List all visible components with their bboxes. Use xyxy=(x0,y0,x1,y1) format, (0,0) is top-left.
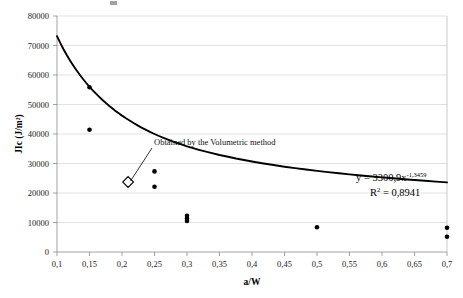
y-axis-title: JIc (J/m²) xyxy=(14,114,25,154)
data-point xyxy=(87,128,92,133)
x-tick-label: 0,5 xyxy=(312,259,323,269)
x-tick-label: 0,6 xyxy=(377,259,388,269)
x-tick-label: 0,35 xyxy=(212,259,227,269)
x-axis-title: a/W xyxy=(244,277,261,287)
x-tick-label: 0,55 xyxy=(342,259,357,269)
y-tick-label: 50000 xyxy=(28,100,49,110)
y-tick-label: 60000 xyxy=(28,70,49,80)
x-tick-label: 0,25 xyxy=(147,259,162,269)
equation-exponent: -1,3459 xyxy=(407,171,427,178)
y-tick-label: 0 xyxy=(45,247,49,257)
data-point xyxy=(445,234,450,239)
data-point xyxy=(315,225,320,230)
x-tick-label: 0,4 xyxy=(247,259,258,269)
x-tick-label: 0,65 xyxy=(407,259,422,269)
y-tick-label: 10000 xyxy=(28,218,49,228)
data-point xyxy=(87,85,92,90)
x-tick-labels: 0,1 0,15 0,2 0,25 0,3 0,35 0,4 0,45 0,5 … xyxy=(52,259,453,269)
chart-figure: 0 10000 20000 30000 40000 50000 60000 70… xyxy=(0,0,463,298)
volumetric-method-annotation-label: Obtained by the Volumetric method xyxy=(154,137,276,147)
r-squared-value: = 0,8941 xyxy=(380,187,420,198)
data-point xyxy=(152,184,157,189)
y-tick-label: 20000 xyxy=(28,188,49,198)
y-tick-label: 30000 xyxy=(28,159,49,169)
data-point xyxy=(152,169,157,174)
x-tick-label: 0,1 xyxy=(52,259,63,269)
y-tick-label: 70000 xyxy=(28,41,49,51)
x-tick-label: 0,15 xyxy=(82,259,97,269)
jic-vs-aw-scatter-chart: 0 10000 20000 30000 40000 50000 60000 70… xyxy=(0,0,463,298)
x-tick-label: 0,7 xyxy=(442,259,453,269)
y-tick-marks xyxy=(53,16,57,252)
x-tick-label: 0,2 xyxy=(117,259,128,269)
x-tick-label: 0,3 xyxy=(182,259,193,269)
x-tick-marks xyxy=(57,252,447,256)
y-tick-labels: 0 10000 20000 30000 40000 50000 60000 70… xyxy=(28,11,49,257)
r-squared-base: R xyxy=(370,187,377,198)
y-tick-label: 80000 xyxy=(28,11,49,21)
scan-artifact-mark xyxy=(110,1,117,5)
equation-base: y = 3300,9x xyxy=(356,172,407,183)
data-point xyxy=(185,219,190,224)
data-point xyxy=(445,226,450,231)
y-tick-label: 40000 xyxy=(28,129,49,139)
x-tick-label: 0,45 xyxy=(277,259,292,269)
